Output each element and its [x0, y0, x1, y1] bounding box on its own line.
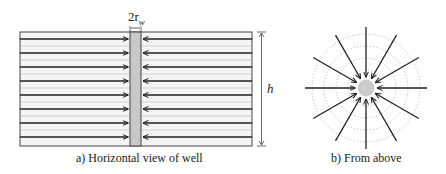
caption-panel-b: b) From above — [331, 151, 402, 166]
height-label: h — [267, 81, 274, 97]
well-width-label: 2rw — [128, 9, 145, 27]
well-width-dimension — [130, 26, 141, 32]
figure-canvas — [0, 0, 446, 174]
panel-a-horizontal-view — [20, 26, 266, 146]
panel-b-from-above — [305, 27, 427, 149]
caption-panel-a: a) Horizontal view of well — [76, 151, 203, 166]
height-dimension — [257, 32, 266, 146]
well-circle — [358, 80, 374, 96]
wellbore — [130, 32, 141, 146]
